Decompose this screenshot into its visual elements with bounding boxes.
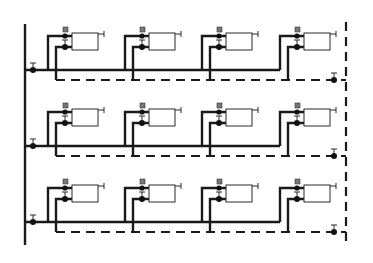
floor-2-radiator-3-body <box>226 109 252 126</box>
floor-2-radiator-2-supply-branch <box>125 112 149 146</box>
floor-2-radiator-2-supply-valve-icon <box>139 109 144 114</box>
floor-3-radiator-1-return-branch <box>56 199 72 232</box>
floor-2-radiator-2-thermostat-head-icon <box>140 103 145 108</box>
floor-2-radiator-1-return-branch <box>56 123 72 156</box>
floor-3-radiator-3-thermostat-head-icon <box>217 179 222 184</box>
floor-1-radiator-4-thermostat-head-icon <box>295 27 300 32</box>
floor-3-radiator-4-thermostat-head-icon <box>295 179 300 184</box>
floor-2-radiator-1-thermostat-head-icon <box>63 103 68 108</box>
floor-1-radiator-1-return-valve-icon <box>62 44 68 50</box>
floor-3-radiator-2-thermostat-head-icon <box>140 179 145 184</box>
floor-3-return-valve-icon <box>331 229 337 235</box>
floor-3-radiator-3-return-branch <box>210 199 226 232</box>
floor-3-supply-valve-icon <box>30 219 36 225</box>
floor-3-radiator-4-return-valve-icon <box>294 196 300 202</box>
floor-3-radiator-3-return-valve-icon <box>216 196 222 202</box>
floor-1-radiator-4-body <box>304 33 330 50</box>
floor-3-radiator-2-return-branch <box>133 199 149 232</box>
floor-2-radiator-3-supply-branch <box>202 112 226 146</box>
floor-3-radiator-4-return-branch <box>288 199 304 232</box>
floor-1-radiator-3-thermostat-head-icon <box>217 27 222 32</box>
floor-3-radiator-4-supply-branch <box>280 188 304 222</box>
floor-1-radiator-1-body <box>72 33 98 50</box>
floor-3-radiator-2-supply-branch <box>125 188 149 222</box>
floor-2-radiator-3-return-branch <box>210 123 226 156</box>
floor-2-radiator-4-supply-valve-icon <box>294 109 299 114</box>
floor-2-radiator-1-return-valve-icon <box>62 120 68 126</box>
floor-1-radiator-2-thermostat-head-icon <box>140 27 145 32</box>
floor-3-radiator-4-supply-valve-icon <box>294 185 299 190</box>
floor-1-radiator-3-supply-valve-icon <box>216 33 221 38</box>
floor-1-radiator-2-supply-branch <box>125 36 149 70</box>
floor-1-radiator-3-body <box>226 33 252 50</box>
floor-1-radiator-1-supply-valve-icon <box>62 33 67 38</box>
floor-1-radiator-1-supply-branch <box>48 36 72 70</box>
floor-1-radiator-2-return-valve-icon <box>139 44 145 50</box>
floor-2-radiator-3-return-valve-icon <box>216 120 222 126</box>
floor-2-radiator-2-body <box>149 109 175 126</box>
floor-2-radiator-1-body <box>72 109 98 126</box>
floor-3-radiator-2-body <box>149 185 175 202</box>
floor-3-radiator-3-supply-valve-icon <box>216 185 221 190</box>
floor-1-radiator-1-thermostat-head-icon <box>63 27 68 32</box>
floor-2-radiator-1-supply-valve-icon <box>62 109 67 114</box>
floor-2-radiator-3-supply-valve-icon <box>216 109 221 114</box>
floor-1-radiator-3-return-valve-icon <box>216 44 222 50</box>
floor-3-radiator-3-body <box>226 185 252 202</box>
floor-1-radiator-2-body <box>149 33 175 50</box>
floor-1-radiator-1-return-branch <box>56 47 72 80</box>
floor-2-radiator-4-body <box>304 109 330 126</box>
floor-2-radiator-4-return-valve-icon <box>294 120 300 126</box>
floor-1-radiator-4-return-branch <box>288 47 304 80</box>
floor-1-radiator-2-supply-valve-icon <box>139 33 144 38</box>
floor-2-radiator-3-thermostat-head-icon <box>217 103 222 108</box>
floor-3-radiator-2-return-valve-icon <box>139 196 145 202</box>
floor-3-radiator-2-supply-valve-icon <box>139 185 144 190</box>
floor-3-radiator-1-thermostat-head-icon <box>63 179 68 184</box>
floor-1-return-valve-icon <box>331 77 337 83</box>
floor-2-radiator-2-return-valve-icon <box>139 120 145 126</box>
floor-2-supply-valve-icon <box>30 143 36 149</box>
floor-3-radiator-1-supply-branch <box>48 188 72 222</box>
floor-2-radiator-4-supply-branch <box>280 112 304 146</box>
floor-3-radiator-1-return-valve-icon <box>62 196 68 202</box>
floor-2-radiator-1-supply-branch <box>48 112 72 146</box>
floor-1-radiator-2-return-branch <box>133 47 149 80</box>
floor-1-radiator-3-supply-branch <box>202 36 226 70</box>
floor-2-radiator-4-thermostat-head-icon <box>295 103 300 108</box>
floor-3-radiator-4-body <box>304 185 330 202</box>
floor-2-radiator-2-return-branch <box>133 123 149 156</box>
floor-1-supply-valve-icon <box>30 67 36 73</box>
floor-3-radiator-1-body <box>72 185 98 202</box>
floor-3-radiator-1-supply-valve-icon <box>62 185 67 190</box>
floor-1-radiator-3-return-branch <box>210 47 226 80</box>
floor-1-radiator-4-return-valve-icon <box>294 44 300 50</box>
floor-1-radiator-4-supply-valve-icon <box>294 33 299 38</box>
diagram-canvas <box>0 0 373 263</box>
floor-3-radiator-3-supply-branch <box>202 188 226 222</box>
floor-1-radiator-4-supply-branch <box>280 36 304 70</box>
floor-2-radiator-4-return-branch <box>288 123 304 156</box>
floor-2-return-valve-icon <box>331 153 337 159</box>
